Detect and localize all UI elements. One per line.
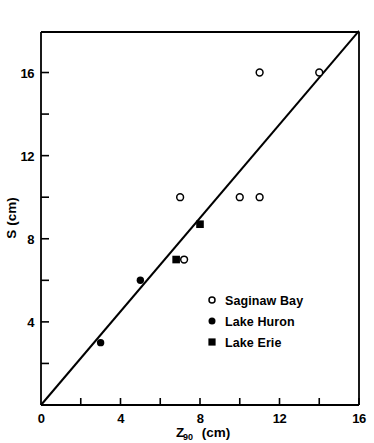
data-point-filled-square[interactable] [208,338,215,345]
data-point-open-circle[interactable] [256,194,263,201]
y-tick-label: 4 [27,315,35,330]
legend-item-label: Lake Erie [225,336,282,350]
scatter-plot-figure: 0481216481216Z90(cm)S (cm)Saginaw BayLak… [0,0,374,443]
x-tick-label: 0 [38,411,45,426]
data-point-filled-circle[interactable] [137,277,144,284]
y-axis-title: S (cm) [4,197,19,238]
data-point-open-circle[interactable] [236,194,243,201]
legend: Saginaw BayLake HuronLake Erie [208,294,303,350]
x-axis-title-subscript: 90 [183,432,193,442]
legend-item[interactable]: Lake Erie [208,336,281,350]
x-axis-title: Z90(cm) [176,425,230,442]
reference-line [41,31,359,405]
data-point-filled-square[interactable] [172,256,180,264]
x-tick-label: 4 [117,411,125,426]
y-tick-label: 16 [21,66,35,81]
data-point-open-circle[interactable] [181,256,188,263]
x-tick-label: 12 [273,411,287,426]
x-axis-title-unit: (cm) [202,425,231,440]
x-tick-label: 16 [352,411,366,426]
data-point-open-circle[interactable] [177,194,184,201]
data-point-filled-square[interactable] [196,220,204,228]
plot-canvas: 0481216481216Z90(cm)S (cm)Saginaw BayLak… [0,0,374,443]
series-lake-erie [172,220,203,263]
data-point-open-circle[interactable] [256,69,263,76]
legend-item-label: Saginaw Bay [225,294,303,308]
legend-item-label: Lake Huron [225,315,295,329]
data-point-filled-circle[interactable] [97,339,104,346]
y-tick-label: 8 [27,232,34,247]
x-tick-label: 8 [197,411,204,426]
data-point-open-circle[interactable] [316,69,323,76]
data-point-filled-circle[interactable] [209,318,216,325]
legend-item[interactable]: Saginaw Bay [209,294,303,308]
data-point-open-circle[interactable] [209,297,215,303]
legend-item[interactable]: Lake Huron [209,315,295,329]
y-tick-label: 12 [21,149,35,164]
